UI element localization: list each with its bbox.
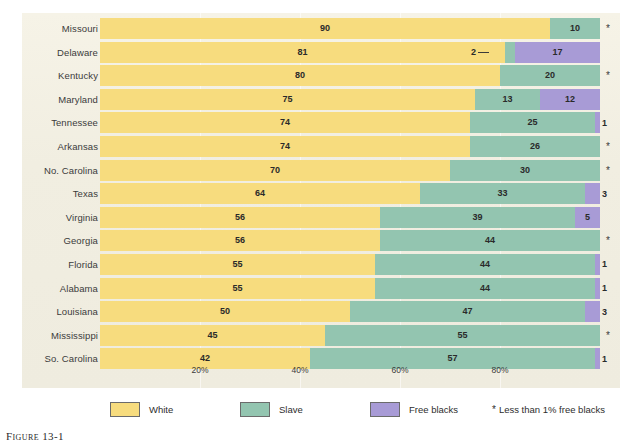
- segment-slave[interactable]: 44: [380, 230, 600, 251]
- legend-item-free-blacks[interactable]: Free blacks: [370, 402, 458, 417]
- bar-track: 56395: [100, 207, 600, 228]
- caption-number: 13-1: [42, 430, 64, 442]
- row-label-florida: Florida: [22, 254, 98, 275]
- segment-slave[interactable]: 10: [550, 18, 600, 39]
- segment-free[interactable]: 1: [595, 254, 600, 275]
- segment-slave[interactable]: 20: [500, 65, 600, 86]
- segment-free[interactable]: 3: [585, 183, 600, 204]
- segment-value: 33: [497, 189, 507, 198]
- row-label-tennessee: Tennessee: [22, 112, 98, 133]
- legend-item-white[interactable]: White: [110, 402, 173, 417]
- leader-line: [478, 52, 489, 53]
- figure-caption: Figure 13-1: [6, 430, 64, 444]
- footnote-text: Less than 1% free blacks: [499, 404, 605, 415]
- segment-value: 10: [570, 24, 580, 33]
- segment-slave[interactable]: 44: [375, 278, 595, 299]
- segment-value: 50: [220, 307, 230, 316]
- segment-white[interactable]: 56: [100, 207, 380, 228]
- segment-slave[interactable]: 44: [375, 254, 595, 275]
- segment-slave[interactable]: 47: [350, 301, 585, 322]
- legend-label: Slave: [279, 404, 303, 415]
- segment-value: 80: [295, 71, 305, 80]
- segment-value: 42: [200, 354, 210, 363]
- segment-white[interactable]: 74: [100, 112, 470, 133]
- segment-value: 39: [472, 213, 482, 222]
- segment-white[interactable]: 64: [100, 183, 420, 204]
- segment-free[interactable]: 3: [585, 301, 600, 322]
- bar-track: 554411: [100, 278, 600, 299]
- segment-slave[interactable]: 26: [470, 136, 600, 157]
- segment-value: 25: [527, 118, 537, 127]
- outside-label-free: 1: [602, 254, 607, 275]
- bar-track: 643333: [100, 183, 600, 204]
- segment-slave[interactable]: 33: [420, 183, 585, 204]
- bar-row: Louisiana504733: [22, 301, 620, 322]
- row-label-virginia: Virginia: [22, 207, 98, 228]
- figure-container: Missouri9010*Delaware812172Kentucky8020*…: [0, 0, 628, 444]
- axis-tick-60: 60%: [391, 365, 408, 375]
- bar-track: 9010: [100, 18, 600, 39]
- chart-panel: Missouri9010*Delaware812172Kentucky8020*…: [22, 13, 620, 388]
- segment-value: 74: [280, 142, 290, 151]
- bar-row: Missouri9010*: [22, 18, 620, 39]
- legend-item-slave[interactable]: Slave: [240, 402, 303, 417]
- segment-white[interactable]: 70: [100, 160, 450, 181]
- row-label-missouri: Missouri: [22, 18, 98, 39]
- segment-value: 30: [520, 166, 530, 175]
- segment-white[interactable]: 45: [100, 325, 325, 346]
- segment-white[interactable]: 81: [100, 42, 505, 63]
- segment-slave[interactable]: 2: [505, 42, 515, 63]
- segment-value: 44: [485, 236, 495, 245]
- segment-free[interactable]: 5: [575, 207, 600, 228]
- row-label-so-carolina: So. Carolina: [22, 348, 98, 369]
- x-axis: 20%40%60%80%: [100, 365, 600, 381]
- legend-swatch: [240, 402, 270, 417]
- segment-value: 55: [457, 331, 467, 340]
- axis-tick-20: 20%: [191, 365, 208, 375]
- bar-row: Delaware812172: [22, 42, 620, 63]
- segment-white[interactable]: 55: [100, 278, 375, 299]
- segment-slave[interactable]: 25: [470, 112, 595, 133]
- segment-white[interactable]: 75: [100, 89, 475, 110]
- segment-free[interactable]: 17: [515, 42, 600, 63]
- segment-white[interactable]: 50: [100, 301, 350, 322]
- bar-track: 554411: [100, 254, 600, 275]
- legend-label: Free blacks: [409, 404, 458, 415]
- segment-slave[interactable]: 39: [380, 207, 575, 228]
- bar-row: Maryland751312: [22, 89, 620, 110]
- segment-slave[interactable]: 55: [325, 325, 600, 346]
- segment-white[interactable]: 80: [100, 65, 500, 86]
- segment-value: 56: [235, 213, 245, 222]
- segment-white[interactable]: 55: [100, 254, 375, 275]
- bar-row: Mississippi4555*: [22, 325, 620, 346]
- segment-free[interactable]: 1: [595, 278, 600, 299]
- bar-track: 7030: [100, 160, 600, 181]
- bar-row: Florida554411: [22, 254, 620, 275]
- row-label-louisiana: Louisiana: [22, 301, 98, 322]
- segment-slave[interactable]: 13: [475, 89, 540, 110]
- outside-label-free: 1: [602, 278, 607, 299]
- bar-row: Texas643333: [22, 183, 620, 204]
- segment-free[interactable]: 1: [595, 112, 600, 133]
- footnote-asterisk: *: [606, 65, 610, 86]
- footnote-asterisk: *: [606, 230, 610, 251]
- segment-white[interactable]: 56: [100, 230, 380, 251]
- segment-value: 55: [232, 260, 242, 269]
- row-label-kentucky: Kentucky: [22, 65, 98, 86]
- segment-white[interactable]: 90: [100, 18, 550, 39]
- outside-label-free: 1: [602, 112, 607, 133]
- segment-free[interactable]: 12: [540, 89, 600, 110]
- callout-value: 2: [471, 47, 476, 57]
- axis-tick-40: 40%: [291, 365, 308, 375]
- segment-value: 44: [480, 260, 490, 269]
- outside-label-free: 1: [602, 348, 607, 369]
- row-label-georgia: Georgia: [22, 230, 98, 251]
- segment-value: 47: [462, 307, 472, 316]
- segment-slave[interactable]: 30: [450, 160, 600, 181]
- segment-value: 64: [255, 189, 265, 198]
- bar-track: 8020: [100, 65, 600, 86]
- segment-value: 74: [280, 118, 290, 127]
- segment-white[interactable]: 74: [100, 136, 470, 157]
- outside-label-free: 3: [602, 183, 607, 204]
- bar-track: 4555: [100, 325, 600, 346]
